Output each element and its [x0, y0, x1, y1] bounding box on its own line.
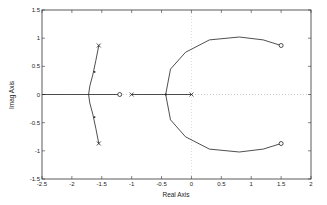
- x-tick-label: 0: [190, 181, 194, 187]
- x-axis-label: Real Axis: [162, 191, 190, 198]
- x-tick-label: 2: [309, 181, 313, 187]
- locus-branches: [42, 37, 281, 152]
- y-tick-label: 0.5: [32, 63, 41, 69]
- x-tick-label: -1: [129, 181, 135, 187]
- x-tick-label: 1: [250, 181, 254, 187]
- locus-branch-upper-left: [89, 46, 99, 95]
- x-tick-label: -0.5: [156, 181, 167, 187]
- y-axis-label: Imag Axis: [8, 80, 16, 109]
- locus-branch-upper-arc: [166, 37, 281, 95]
- x-tick-label: 1.5: [277, 181, 286, 187]
- plot-axes: -2.5-2-1.5-1-0.500.511.521.510.50-0.5-1-…: [30, 7, 314, 187]
- zero-marker-icon: [118, 93, 122, 97]
- breakaway-point: [165, 94, 167, 96]
- y-tick-label: -1.5: [30, 176, 41, 182]
- zero-marker-icon: [279, 142, 283, 146]
- locus-branch-lower-left: [89, 95, 99, 144]
- root-locus-chart: -2.5-2-1.5-1-0.500.511.521.510.50-0.5-1-…: [0, 0, 327, 205]
- zero-marker-icon: [279, 43, 283, 47]
- y-tick-label: 1: [37, 35, 41, 41]
- y-tick-label: -0.5: [30, 120, 41, 126]
- x-tick-label: -1.5: [97, 181, 108, 187]
- x-tick-label: 0.5: [217, 181, 226, 187]
- y-tick-label: 1.5: [32, 7, 41, 13]
- locus-branch-lower-arc: [166, 95, 281, 153]
- x-tick-label: -2: [69, 181, 75, 187]
- y-tick-label: 0: [37, 92, 41, 98]
- y-tick-label: -1: [35, 148, 41, 154]
